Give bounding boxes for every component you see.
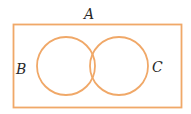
venn-diagram: A B C [0, 0, 191, 114]
label-a: A [82, 6, 94, 22]
label-c: C [152, 59, 163, 75]
set-c-circle [90, 37, 148, 95]
set-b-circle [37, 37, 95, 95]
label-b: B [15, 61, 26, 77]
